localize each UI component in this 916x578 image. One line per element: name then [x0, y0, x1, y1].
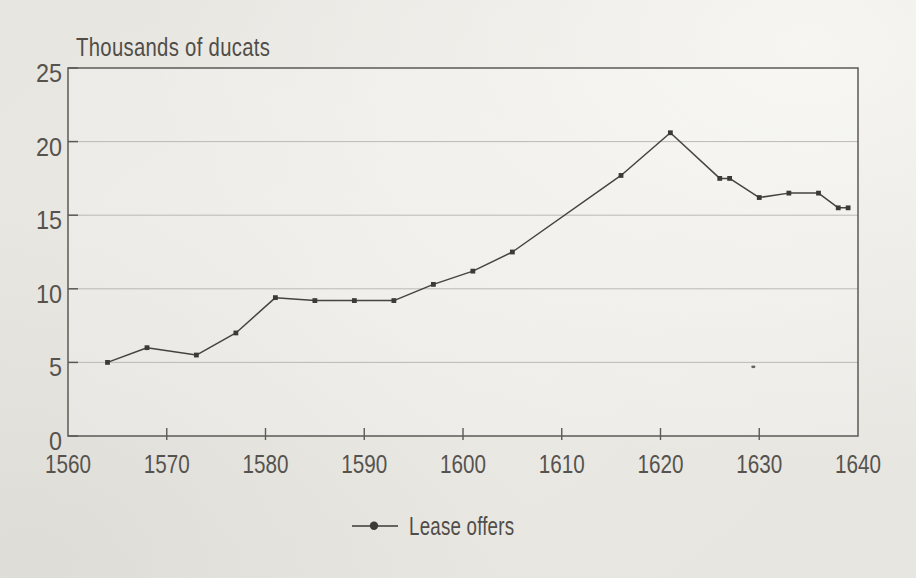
data-point-1585 [312, 298, 317, 303]
data-point-1630 [757, 195, 762, 200]
legend-label: Lease offers [409, 511, 514, 542]
y-tick-label-25: 25 [36, 58, 62, 88]
data-point-1577 [233, 331, 238, 336]
data-point-1616 [619, 173, 624, 178]
x-tick-label-1630: 1630 [736, 449, 782, 479]
data-point-1597 [431, 282, 436, 287]
data-point-1639 [846, 205, 851, 210]
chart-figure: Thousands of ducats 05101520251560157015… [0, 0, 916, 578]
data-point-1627 [727, 176, 732, 181]
y-tick-label-5: 5 [49, 352, 62, 382]
data-point-1621 [668, 130, 673, 135]
x-tick-label-1600: 1600 [440, 449, 486, 479]
legend-line-dot-icon [351, 517, 401, 535]
data-point-1581 [273, 295, 278, 300]
data-point-1573 [194, 353, 199, 358]
y-tick-label-20: 20 [36, 132, 62, 162]
data-point-1626 [717, 176, 722, 181]
x-tick-label-1570: 1570 [144, 449, 190, 479]
x-tick-label-1620: 1620 [638, 449, 684, 479]
data-point-1593 [391, 298, 396, 303]
data-point-1564 [105, 360, 110, 365]
data-point-1568 [145, 345, 150, 350]
data-point-1638 [836, 205, 841, 210]
scan-speck [751, 365, 755, 368]
data-point-1601 [470, 269, 475, 274]
x-tick-label-1560: 1560 [45, 449, 91, 479]
data-point-1636 [816, 191, 821, 196]
legend: Lease offers [351, 511, 555, 541]
data-point-1589 [352, 298, 357, 303]
y-tick-label-15: 15 [36, 205, 62, 235]
data-point-1633 [786, 191, 791, 196]
line-chart-plot-area: 0510152025156015701580159016001610162016… [0, 0, 916, 578]
data-point-1605 [510, 250, 515, 255]
x-tick-label-1590: 1590 [341, 449, 387, 479]
y-tick-label-10: 10 [36, 279, 62, 309]
x-tick-label-1580: 1580 [243, 449, 289, 479]
plot-background [68, 68, 858, 436]
x-tick-label-1640: 1640 [835, 449, 881, 479]
x-tick-label-1610: 1610 [539, 449, 585, 479]
